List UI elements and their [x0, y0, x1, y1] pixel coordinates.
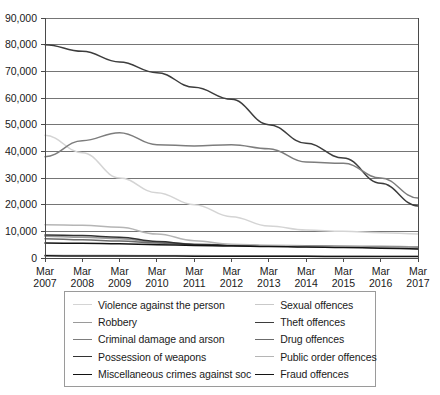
x-tick-label-year: 2012	[220, 277, 244, 289]
legend-color-swatch	[73, 374, 92, 375]
y-tick-label: 60,000	[5, 92, 37, 104]
series-line	[45, 256, 418, 257]
legend-item[interactable]: Fraud offences	[255, 368, 376, 380]
legend-item[interactable]: Criminal damage and arson	[73, 333, 251, 345]
series-lines	[45, 45, 418, 257]
y-tick-label: 10,000	[5, 225, 37, 237]
legend-color-swatch	[255, 304, 274, 305]
legend-color-swatch	[73, 339, 92, 340]
y-tick-label: 30,000	[5, 172, 37, 184]
legend-item[interactable]: Public order offences	[255, 351, 376, 363]
y-tick-label: 90,000	[5, 12, 37, 24]
x-tick-label-month: Mar	[148, 265, 167, 277]
y-tick-label: 70,000	[5, 65, 37, 77]
legend-item[interactable]: Theft offences	[255, 316, 376, 328]
x-tick-label-month: Mar	[260, 265, 279, 277]
axis-frame	[45, 18, 418, 258]
legend-item-label: Violence against the person	[98, 299, 225, 311]
x-tick-label-year: 2013	[257, 277, 281, 289]
x-tick-label-year: 2010	[145, 277, 169, 289]
y-tick-label: 80,000	[5, 38, 37, 50]
line-chart-svg: 010,00020,00030,00040,00050,00060,00070,…	[0, 0, 440, 290]
legend-item-label: Fraud offences	[280, 368, 348, 380]
legend-color-swatch	[255, 356, 274, 357]
legend-color-swatch	[255, 374, 274, 375]
legend-color-swatch	[255, 322, 274, 323]
legend-color-swatch	[255, 339, 274, 340]
legend-item-label: Robbery	[98, 316, 137, 328]
x-tick-label-year: 2011	[183, 277, 206, 289]
x-tick-label-year: 2016	[369, 277, 393, 289]
gridlines	[45, 18, 418, 258]
legend-grid: Violence against the personSexual offenc…	[73, 296, 369, 383]
legend-item[interactable]: Violence against the person	[73, 299, 251, 311]
legend-item-label: Drug offences	[280, 333, 344, 345]
y-tick-label: 0	[31, 252, 37, 264]
legend-item-label: Sexual offences	[280, 299, 353, 311]
x-tick-label-month: Mar	[372, 265, 391, 277]
x-axis-tick-labels: Mar2007Mar2008Mar2009Mar2010Mar2011Mar20…	[33, 265, 430, 289]
legend-item[interactable]: Robbery	[73, 316, 251, 328]
legend-color-swatch	[73, 322, 92, 323]
legend-color-swatch	[73, 356, 92, 357]
x-tick-label-year: 2007	[33, 277, 57, 289]
legend-item-label: Possession of weapons	[98, 351, 206, 363]
legend-item[interactable]: Sexual offences	[255, 299, 376, 311]
x-tick-label-year: 2014	[294, 277, 318, 289]
legend-item[interactable]: Drug offences	[255, 333, 376, 345]
legend-item-label: Public order offences	[280, 351, 376, 363]
x-tick-label-month: Mar	[409, 265, 428, 277]
y-tick-label: 50,000	[5, 118, 37, 130]
y-axis-tick-labels: 010,00020,00030,00040,00050,00060,00070,…	[5, 12, 37, 264]
chart-figure: 010,00020,00030,00040,00050,00060,00070,…	[0, 0, 440, 395]
y-tick-label: 40,000	[5, 145, 37, 157]
legend-item-label: Miscellaneous crimes against soc	[98, 368, 251, 380]
series-line	[45, 45, 418, 206]
x-tick-label-month: Mar	[185, 265, 204, 277]
series-line	[45, 135, 418, 234]
x-tick-label-month: Mar	[334, 265, 353, 277]
x-tick-label-month: Mar	[297, 265, 316, 277]
x-tick-label-year: 2015	[332, 277, 356, 289]
y-tick-label: 20,000	[5, 198, 37, 210]
legend-color-swatch	[73, 304, 92, 305]
x-tick-label-month: Mar	[222, 265, 241, 277]
legend-item[interactable]: Possession of weapons	[73, 351, 251, 363]
x-tick-label-month: Mar	[111, 265, 130, 277]
legend-item[interactable]: Miscellaneous crimes against soc	[73, 368, 251, 380]
x-tick-label-month: Mar	[73, 265, 92, 277]
x-tick-label-year: 2009	[108, 277, 132, 289]
x-tick-label-month: Mar	[36, 265, 55, 277]
legend-item-label: Theft offences	[280, 316, 345, 328]
legend-item-label: Criminal damage and arson	[98, 333, 224, 345]
x-tick-label-year: 2017	[406, 277, 430, 289]
legend: Violence against the personSexual offenc…	[64, 291, 376, 387]
plot-area: 010,00020,00030,00040,00050,00060,00070,…	[0, 0, 440, 290]
x-tick-label-year: 2008	[71, 277, 95, 289]
